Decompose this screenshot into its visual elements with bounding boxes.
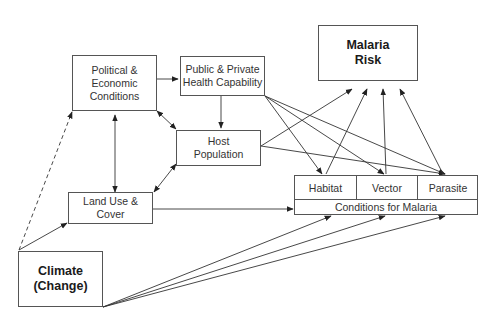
conditions-label-text: Conditions for Malaria	[335, 201, 437, 213]
edge-political-host	[157, 111, 176, 129]
node-label: Land Use & Cover	[83, 195, 138, 221]
node-conditions-for-malaria: Habitat Vector Parasite Conditions for M…	[294, 175, 478, 215]
node-label: Climate (Change)	[33, 264, 87, 294]
node-health-capability: Public & Private Health Capability	[180, 56, 265, 96]
edge-climate-to-habitat	[103, 216, 331, 307]
cell-label: Parasite	[429, 182, 468, 194]
edge-climate-to-landuse	[19, 223, 67, 250]
cell-habitat: Habitat	[295, 176, 357, 199]
cell-parasite: Parasite	[418, 176, 478, 199]
edge-parasite-to-risk	[400, 89, 443, 174]
edge-health-to-habitat	[265, 96, 322, 174]
cell-vector: Vector	[357, 176, 418, 199]
edge-climate-to-parasite	[103, 216, 445, 307]
node-climate-change: Climate (Change)	[18, 251, 103, 307]
node-label: Host Population	[194, 135, 244, 161]
edge-host-to-parasite	[261, 146, 445, 174]
edge-host-landuse	[154, 164, 176, 192]
node-political-economic-conditions: Political & Economic Conditions	[72, 55, 157, 111]
edge-host-to-risk	[261, 89, 352, 146]
edge-vector-to-risk	[383, 89, 386, 174]
node-host-population: Host Population	[176, 130, 261, 166]
node-label: Malaria Risk	[346, 38, 389, 68]
cell-label: Vector	[372, 182, 402, 194]
edge-health-to-parasite	[265, 96, 445, 174]
edge-climate-to-vector	[103, 216, 385, 307]
node-malaria-risk: Malaria Risk	[318, 25, 418, 81]
edge-climate-to-political	[19, 112, 72, 250]
node-land-use-cover: Land Use & Cover	[68, 192, 153, 224]
node-label: Public & Private Health Capability	[183, 63, 262, 89]
cell-label: Habitat	[309, 182, 342, 194]
conditions-label: Conditions for Malaria	[295, 199, 477, 214]
node-label: Political & Economic Conditions	[90, 64, 140, 103]
